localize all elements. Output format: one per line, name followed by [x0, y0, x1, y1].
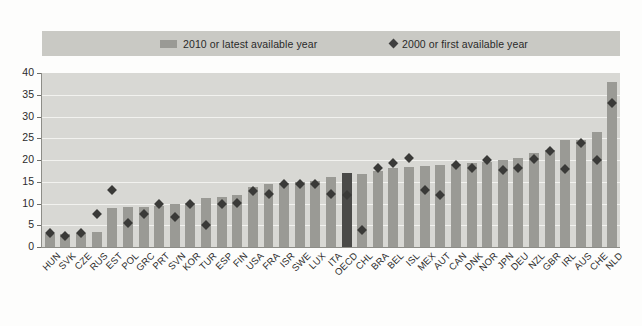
y-axis-tick-label: 5 [8, 218, 34, 230]
marker-series [42, 73, 620, 247]
marker-pol [123, 218, 133, 228]
bar-swatch-icon [160, 40, 177, 48]
x-axis-labels: HUNSVKCZERUSESTPOLGRCPRTSVNKORTURESPFINU… [42, 250, 620, 310]
marker-che [592, 155, 602, 165]
marker-mex [420, 186, 430, 196]
marker-irl [560, 164, 570, 174]
marker-isl [404, 153, 414, 163]
marker-tur [201, 220, 211, 230]
marker-aut [435, 190, 445, 200]
y-axis-tick-label: 30 [8, 110, 34, 122]
marker-hun [45, 228, 55, 238]
marker-fra [264, 189, 274, 199]
marker-swe [295, 179, 305, 189]
y-axis-tick-mark [37, 138, 41, 139]
marker-prt [154, 199, 164, 209]
plot-area [42, 73, 620, 247]
legend-label-2010: 2010 or latest available year [183, 38, 317, 50]
y-axis-tick-label: 35 [8, 88, 34, 100]
chart-root: 2010 or latest available year 2000 or fi… [0, 0, 642, 326]
y-axis-tick-mark [37, 225, 41, 226]
marker-svn [170, 212, 180, 222]
y-axis-tick-mark [37, 182, 41, 183]
marker-est [107, 186, 117, 196]
marker-isr [279, 179, 289, 189]
y-axis-tick-mark [37, 117, 41, 118]
y-axis-tick-label: 20 [8, 153, 34, 165]
marker-gbr [545, 146, 555, 156]
marker-esp [217, 199, 227, 209]
chart-legend: 2010 or latest available year 2000 or fi… [42, 31, 620, 56]
x-axis-label-nld: NLD [603, 250, 625, 272]
marker-nor [482, 155, 492, 165]
marker-bra [373, 163, 383, 173]
legend-label-2000: 2000 or first available year [402, 38, 528, 50]
marker-bel [389, 159, 399, 169]
marker-can [451, 160, 461, 170]
marker-kor [185, 199, 195, 209]
marker-jpn [498, 165, 508, 175]
marker-deu [514, 163, 524, 173]
marker-rus [92, 209, 102, 219]
marker-oecd [342, 190, 352, 200]
y-axis-tick-label: 40 [8, 66, 34, 78]
marker-nld [607, 99, 617, 109]
marker-grc [139, 209, 149, 219]
legend-item-2010: 2010 or latest available year [160, 38, 317, 50]
y-axis-tick-label: 0 [8, 240, 34, 252]
y-axis-tick-mark [37, 204, 41, 205]
marker-lux [310, 179, 320, 189]
y-axis-tick-label: 15 [8, 175, 34, 187]
marker-aus [576, 139, 586, 149]
x-axis-line [41, 247, 620, 248]
y-axis-tick-label: 25 [8, 131, 34, 143]
marker-usa [248, 186, 258, 196]
legend-item-2000: 2000 or first available year [390, 38, 528, 50]
y-axis-tick-mark [37, 247, 41, 248]
y-axis-tick-mark [37, 160, 41, 161]
y-axis-tick-mark [37, 73, 41, 74]
marker-dnk [467, 163, 477, 173]
y-axis-tick-mark [37, 95, 41, 96]
marker-nzl [529, 154, 539, 164]
marker-chl [357, 225, 367, 235]
marker-fin [232, 198, 242, 208]
y-axis-tick-label: 10 [8, 197, 34, 209]
marker-cze [76, 228, 86, 238]
marker-ita [326, 189, 336, 199]
diamond-marker-icon [389, 39, 399, 49]
marker-svk [60, 231, 70, 241]
